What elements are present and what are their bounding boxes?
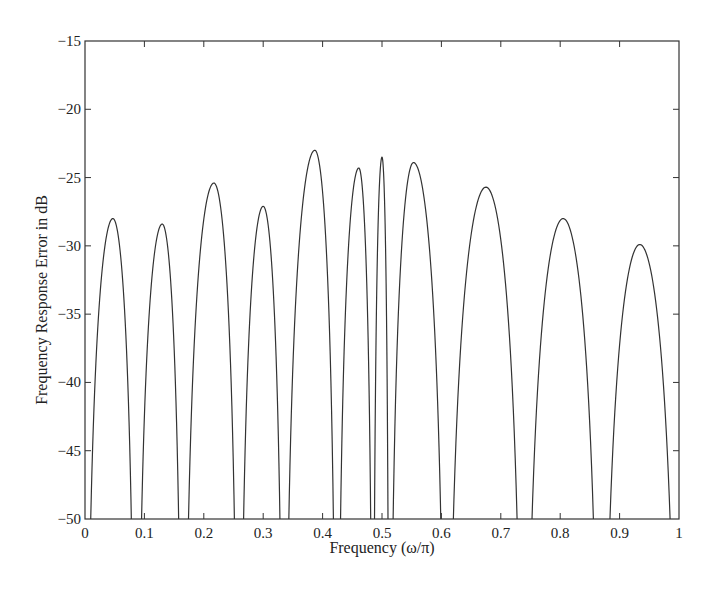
x-tick-label: 0.1	[135, 525, 154, 541]
y-tick-label: −45	[58, 443, 81, 459]
error-curve	[85, 150, 679, 546]
y-tick-label: −35	[58, 306, 81, 322]
plot-frame	[85, 41, 679, 519]
x-axis-label: Frequency (ω/π)	[329, 539, 434, 557]
y-tick-label: −15	[58, 33, 81, 49]
y-tick-label: −25	[58, 170, 81, 186]
x-tick-label: 1	[675, 525, 683, 541]
x-tick-label: 0.7	[491, 525, 510, 541]
y-tick-label: −20	[58, 101, 81, 117]
x-tick-label: 0	[81, 525, 89, 541]
y-axis-ticks: −15−20−25−30−35−40−45−50	[58, 33, 679, 527]
x-tick-label: 0.8	[551, 525, 570, 541]
x-tick-label: 0.3	[254, 525, 273, 541]
x-tick-label: 0.2	[194, 525, 213, 541]
x-tick-label: 0.6	[432, 525, 451, 541]
chart-svg: 00.10.20.30.40.50.60.70.80.91 −15−20−25−…	[0, 0, 712, 592]
y-axis-label: Frequency Response Error in dB	[33, 195, 51, 405]
y-tick-label: −30	[58, 238, 81, 254]
plot-area	[85, 41, 679, 546]
y-tick-label: −50	[58, 511, 81, 527]
x-tick-label: 0.9	[610, 525, 629, 541]
y-tick-label: −40	[58, 374, 81, 390]
